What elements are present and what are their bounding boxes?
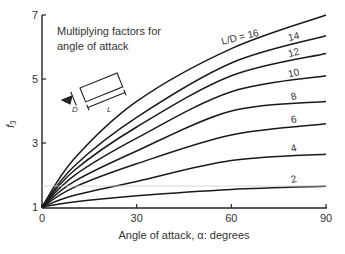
chart-title-line-2: angle of attack [57, 40, 129, 52]
y-axis-label: f₃ [4, 120, 16, 128]
curve-ld-6 [42, 124, 326, 207]
curve-label: 14 [287, 30, 301, 43]
chart-title-line-1: Multiplying factors for [57, 25, 161, 37]
curve-label: 12 [287, 46, 301, 59]
curve-ld-8 [42, 101, 326, 207]
curve-ld-12 [42, 53, 326, 207]
x-tick-label: 90 [320, 212, 332, 224]
curve-label: 10 [287, 66, 301, 79]
x-tick-label: 30 [131, 212, 143, 224]
inset-label-d: D [72, 105, 78, 114]
y-tick-label: 1 [32, 201, 38, 213]
y-tick-label: 3 [32, 137, 38, 149]
curve-label: 6 [290, 113, 298, 125]
y-ticks: 1357 [32, 9, 46, 213]
curve-ld-2 [42, 186, 326, 207]
x-tick-label: 0 [39, 212, 45, 224]
curve-label: L/D = 16 [220, 27, 260, 47]
y-tick-label: 5 [32, 73, 38, 85]
x-tick-label: 60 [225, 212, 237, 224]
curve-label: 8 [290, 90, 298, 102]
curve-label: 4 [290, 142, 298, 154]
inset-label-l: L [107, 105, 111, 114]
x-axis-label: Angle of attack, α: degrees [118, 229, 250, 241]
curve-label: 2 [290, 173, 298, 185]
inset-label-alpha: α [65, 96, 70, 105]
y-tick-label: 7 [32, 9, 38, 21]
chart: 1357 0306090 L/D = 161412108642 Multiply… [0, 0, 345, 254]
x-ticks: 0306090 [39, 204, 332, 224]
